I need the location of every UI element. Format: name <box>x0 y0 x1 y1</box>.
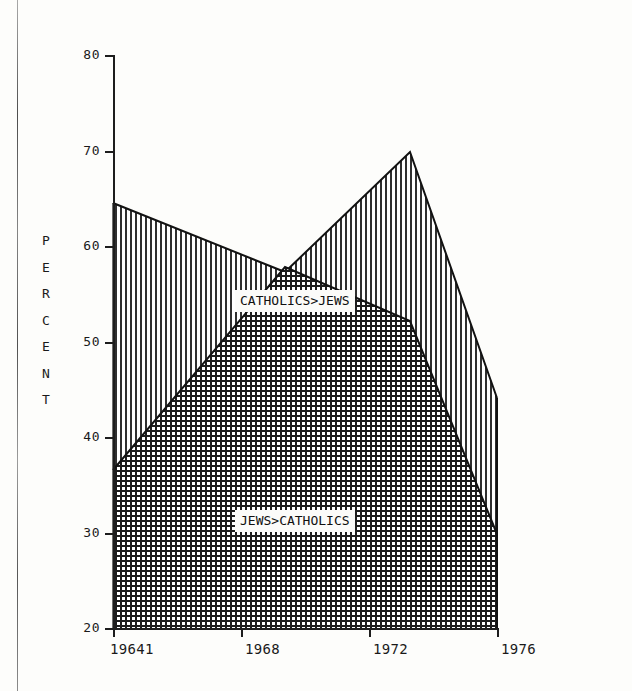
x-tick-1964 <box>113 628 115 637</box>
y-tick-label-20: 20 <box>60 621 100 634</box>
y-axis-title-letter-p: P <box>38 228 54 255</box>
x-axis-line <box>113 628 498 630</box>
y-axis-title-letter-r: R <box>38 281 54 308</box>
x-tick-label-1972: 1972 <box>373 641 408 657</box>
y-tick-label-50: 50 <box>60 335 100 348</box>
x-tick-label-1968: 1968 <box>245 641 280 657</box>
y-tick-label-60: 60 <box>60 239 100 252</box>
y-tick-40 <box>105 437 114 439</box>
y-axis-title-letter-e2: E <box>38 334 54 361</box>
y-axis-title-letter-e1: E <box>38 255 54 282</box>
y-axis-title-letter-c: C <box>38 308 54 335</box>
y-axis-title-letter-n: N <box>38 361 54 388</box>
y-axis-title-letter-t: T <box>38 387 54 414</box>
y-tick-label-80: 80 <box>60 48 100 61</box>
y-tick-50 <box>105 342 114 344</box>
x-tick-label-1964: 19641 <box>110 641 154 657</box>
y-tick-60 <box>105 246 114 248</box>
y-tick-label-30: 30 <box>60 526 100 539</box>
y-tick-30 <box>105 533 114 535</box>
y-tick-80 <box>105 55 114 57</box>
y-axis-title: P E R C E N T <box>38 228 54 414</box>
annotation-catholics-over-jews: CATHOLICS>JEWS <box>236 291 354 311</box>
y-tick-label-70: 70 <box>60 144 100 157</box>
x-tick-1968 <box>241 628 243 637</box>
x-tick-1972 <box>369 628 371 637</box>
y-tick-70 <box>105 151 114 153</box>
y-tick-label-40: 40 <box>60 430 100 443</box>
chart-plot-area: 80 70 60 50 40 30 20 19641 1968 1972 197… <box>0 0 632 691</box>
annotation-jews-over-catholics: JEWS>CATHOLICS <box>236 511 354 531</box>
x-tick-label-1976: 1976 <box>501 641 536 657</box>
x-tick-1976 <box>497 628 499 637</box>
